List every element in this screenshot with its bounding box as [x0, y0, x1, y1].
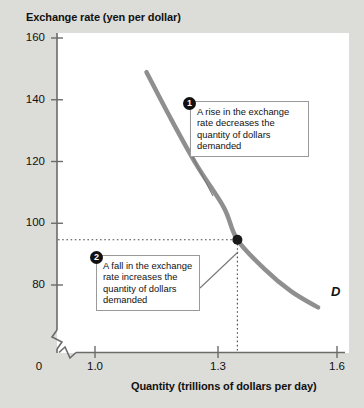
chart-svg [0, 0, 364, 408]
annotation-callout-2: A fall in the exchange rate increases th… [96, 255, 200, 311]
y-tick-label-160: 160 [17, 31, 45, 43]
annotation-badge-1: 1 [183, 97, 196, 110]
y-tick-label-80: 80 [17, 278, 45, 290]
callout-2-leader [200, 252, 238, 288]
y-tick-label-100: 100 [17, 216, 45, 228]
demand-curve-label: D [331, 284, 340, 299]
x-axis-title: Quantity (trillions of dollars per day) [131, 380, 317, 392]
y-axis-break-icon [52, 330, 62, 349]
x-tick-label-1-3: 1.3 [204, 360, 232, 372]
callout-1-leader-diagonal [191, 153, 214, 196]
annotation-callout-1: A rise in the exchange rate decreases th… [190, 101, 309, 157]
y-axis-title: Exchange rate (yen per dollar) [26, 11, 181, 23]
equilibrium-point [232, 235, 242, 245]
annotation-badge-2: 2 [90, 251, 103, 264]
y-tick-label-140: 140 [17, 93, 45, 105]
y-tick-label-120: 120 [17, 155, 45, 167]
figure-container: Exchange rate (yen per dollar) Quantity … [0, 0, 364, 408]
x-tick-label-0: 0 [28, 360, 50, 372]
x-axis-break-icon [59, 347, 76, 358]
x-tick-label-1-0: 1.0 [81, 360, 109, 372]
x-tick-label-1-6: 1.6 [323, 360, 351, 372]
